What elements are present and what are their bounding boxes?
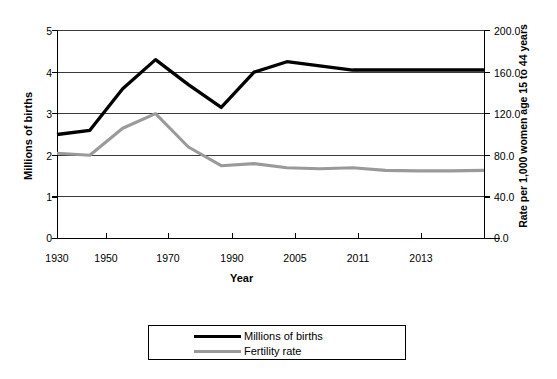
chart-legend: Millions of births Fertility rate — [148, 325, 406, 360]
legend-label-births: Millions of births — [244, 331, 323, 342]
fertility-births-chart: Millions of births Rate per 1,000 women … — [0, 0, 557, 379]
series-line-fertility-rate — [57, 114, 484, 171]
legend-label-fertility: Fertility rate — [244, 346, 301, 357]
legend-item-fertility-rate: Fertility rate — [194, 344, 301, 359]
y-axis-left-ticks — [52, 31, 57, 239]
plot-area — [0, 0, 557, 379]
series-line-millions-of-births — [57, 60, 484, 135]
legend-swatch-icon-fertility — [194, 350, 241, 353]
legend-item-millions-of-births: Millions of births — [194, 329, 323, 344]
x-axis-ticks — [58, 233, 485, 239]
legend-swatch-icon-births — [194, 335, 241, 338]
